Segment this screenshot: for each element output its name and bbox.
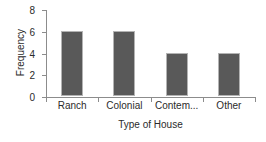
y-axis-tick-label: 0 [29,92,35,103]
bar [113,31,135,96]
y-axis-tick-label: 4 [29,48,35,59]
y-axis-tick-label: 6 [29,26,35,37]
y-axis-line [46,10,47,98]
x-axis-tick-label: Ranch [58,100,87,111]
y-axis-tick: 8 [42,10,46,11]
y-axis-tick-label: 8 [29,5,35,16]
y-axis-title: Frequency [15,3,26,103]
x-axis-tick-labels: RanchColonialContem...Other [46,100,255,114]
y-axis-tick: 2 [42,75,46,76]
bar [166,53,188,97]
bar [61,31,83,96]
y-axis-tick: 6 [42,32,46,33]
x-axis-tick-label: Other [216,100,241,111]
y-axis-tick: 4 [42,54,46,55]
bar-chart: Frequency 02468 RanchColonialContem...Ot… [0,0,266,142]
y-axis-tick-label: 2 [29,70,35,81]
x-axis-tick-label: Contem... [155,100,198,111]
x-axis-title: Type of House [46,119,255,130]
x-axis-tick [255,97,256,102]
x-axis-tick-label: Colonial [106,100,142,111]
plot-area: 02468 [46,10,255,97]
bar [218,53,240,97]
